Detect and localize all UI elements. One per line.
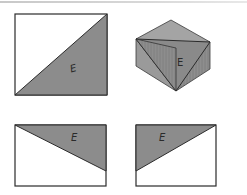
- top-view-panel: E: [15, 125, 106, 186]
- front-view-panel: E: [15, 14, 107, 95]
- side-view-panel: E: [136, 125, 216, 186]
- plane-label-top: E: [71, 132, 78, 143]
- plane-label-isometric: E: [177, 57, 183, 68]
- plane-label-side: E: [159, 132, 166, 143]
- isometric-view-panel: E: [136, 20, 210, 91]
- figure-canvas: E E E E: [0, 0, 247, 195]
